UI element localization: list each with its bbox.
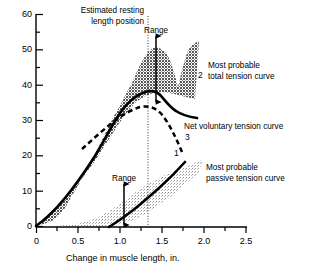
tension-length-chart: 0 10 20 30 40 50 60 0 0.5 1.0 1.5 2.0 2.… [0,0,309,277]
passive-tension-band [52,160,203,226]
net-voluntary-curve [82,106,182,152]
net-voluntary-label: Net voluntary tension curve [184,122,283,131]
total-tension-label-line2: total tension curve [208,72,274,81]
x-tick-label-05: 0.5 [67,236,89,246]
curve-number-3: 3 [185,133,190,143]
y-tick-label-50: 50 [10,44,32,54]
x-axis-title: Change in muscle length, in. [66,253,180,263]
x-tick-label-20: 2.0 [193,236,215,246]
x-tick-label-10: 1.0 [109,236,131,246]
resting-length-label-line1: Estimated resting [62,6,144,15]
y-tick-label-20: 20 [10,150,32,160]
range-label-lower: Range [112,174,136,183]
y-axis-ticks [36,15,43,227]
x-tick-label-25: 2.5 [235,236,257,246]
y-tick-label-30: 30 [10,115,32,125]
y-tick-label-0: 0 [16,221,32,231]
y-tick-label-60: 60 [10,9,32,19]
x-tick-label-0: 0 [28,236,45,246]
curve-number-2: 2 [198,71,203,81]
total-tension-label-line1: Most probable [208,61,260,70]
x-axis-ticks [37,227,247,233]
resting-length-label-line2: length position [62,17,144,26]
range-label-upper: Range [144,26,168,35]
x-tick-label-15: 1.5 [151,236,173,246]
passive-tension-label-line2: passive tension curve [206,174,285,183]
y-tick-label-40: 40 [10,80,32,90]
curve-number-1: 1 [174,149,179,159]
passive-tension-label-line1: Most probable [206,163,258,172]
y-tick-label-10: 10 [10,186,32,196]
